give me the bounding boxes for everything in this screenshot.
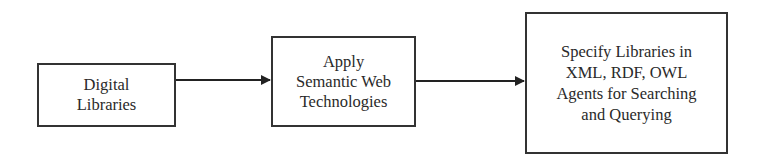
node-label: Apply Semantic Web Technologies: [296, 52, 391, 112]
node-label: Digital Libraries: [77, 75, 137, 115]
node-digital-libraries: Digital Libraries: [37, 63, 176, 127]
node-label: Specify Libraries in XML, RDF, OWL Agent…: [556, 41, 696, 125]
node-specify-libraries: Specify Libraries in XML, RDF, OWL Agent…: [525, 12, 728, 154]
node-apply-semantic-web: Apply Semantic Web Technologies: [271, 36, 416, 127]
